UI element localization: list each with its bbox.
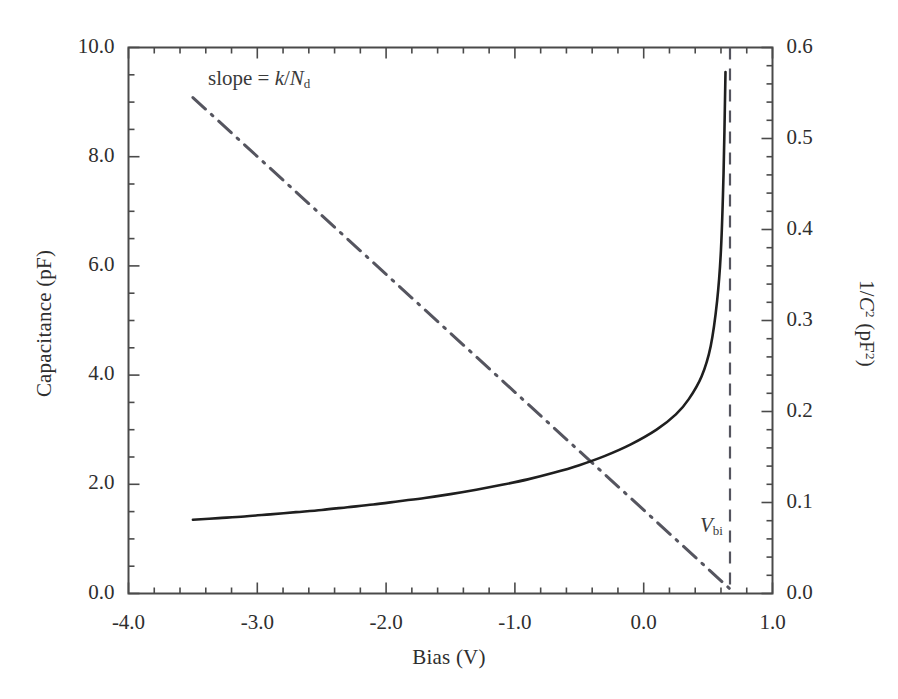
bottom-tick-label: -1.0 — [470, 610, 560, 635]
left-tick-label: 2.0 — [25, 470, 115, 495]
bottom-tick-label: 1.0 — [728, 610, 818, 635]
bottom-tick-label: -3.0 — [212, 610, 302, 635]
slope-annotation-prefix: slope = — [208, 66, 275, 90]
right-tick-label: 0.0 — [787, 580, 877, 605]
slope-annotation-n: N — [290, 66, 304, 90]
bottom-tick-label: 0.0 — [599, 610, 689, 635]
slope-annotation: slope = k/Nd — [208, 66, 310, 92]
y-right-title-units-open: (pF — [855, 318, 879, 353]
plot-frame — [129, 48, 773, 594]
right-tick-label: 0.1 — [787, 489, 877, 514]
right-axis-ticks — [762, 48, 773, 594]
y-axis-right-title: 1/C2 (pF2) — [854, 194, 879, 454]
bottom-tick-label: -2.0 — [341, 610, 431, 635]
vbi-annotation: Vbi — [700, 513, 723, 539]
right-tick-label: 0.5 — [787, 125, 877, 150]
bottom-tick-label: -4.0 — [84, 610, 174, 635]
left-tick-label: 10.0 — [25, 34, 115, 59]
left-axis-ticks — [129, 48, 140, 594]
x-axis-title: Bias (V) — [0, 645, 898, 670]
vbi-annotation-subscript: bi — [713, 523, 723, 538]
y-axis-left-title: Capacitance (pF) — [32, 194, 57, 454]
y-right-title-main: 1/ — [855, 280, 879, 297]
top-axis-ticks — [129, 48, 773, 59]
right-tick-label: 0.6 — [787, 34, 877, 59]
figure-container: 0.02.04.06.08.010.0 0.00.10.20.30.40.50.… — [0, 0, 898, 699]
vbi-annotation-v: V — [700, 513, 713, 537]
y-right-title-units-close: ) — [855, 360, 879, 367]
chart-plot-area — [0, 0, 898, 699]
left-tick-label: 8.0 — [25, 143, 115, 168]
bottom-axis-ticks — [129, 583, 773, 594]
slope-annotation-subscript: d — [304, 76, 311, 91]
capacitance-curve — [193, 72, 726, 520]
left-tick-label: 0.0 — [25, 580, 115, 605]
y-right-title-var: C — [855, 297, 879, 311]
slope-annotation-k: k — [275, 66, 284, 90]
